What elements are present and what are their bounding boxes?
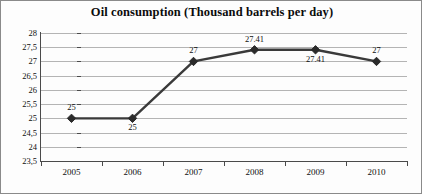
data-point-marker	[311, 46, 319, 54]
x-axis-tick-label: 2007	[169, 167, 219, 177]
chart-container: Oil consumption (Thousand barrels per da…	[0, 0, 422, 194]
data-point-label: 27.41	[245, 34, 264, 44]
data-point-label: 27	[372, 45, 381, 55]
x-axis-tick-label: 2005	[47, 167, 97, 177]
data-point-marker	[372, 57, 380, 65]
x-axis-tick-mark	[346, 161, 347, 166]
data-point-label: 25	[128, 122, 137, 132]
data-point-marker	[67, 114, 75, 122]
x-axis-tick-label: 2010	[352, 167, 402, 177]
x-axis-tick-mark	[102, 161, 103, 166]
series-line-chart	[1, 1, 422, 194]
data-point-label: 27	[189, 45, 198, 55]
series-line	[72, 50, 377, 119]
data-point-marker	[250, 46, 258, 54]
x-axis-tick-label: 2006	[108, 167, 158, 177]
x-axis-tick-mark	[163, 161, 164, 166]
data-point-label: 25	[67, 102, 76, 112]
data-point-label: 27.41	[306, 54, 325, 64]
x-axis-tick-mark	[285, 161, 286, 166]
x-axis-tick-label: 2008	[230, 167, 280, 177]
x-axis-tick-mark	[41, 161, 42, 166]
x-axis-tick-mark	[407, 161, 408, 166]
x-axis-tick-label: 2009	[291, 167, 341, 177]
x-axis-tick-mark	[224, 161, 225, 166]
